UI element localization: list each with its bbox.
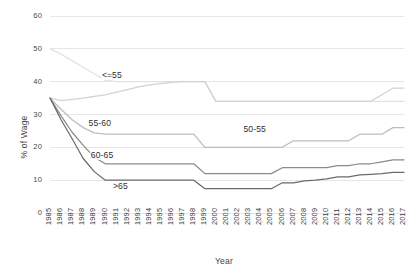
x-tick-label: 2003: [243, 208, 252, 225]
x-tick-label: 2010: [321, 208, 330, 225]
x-tick-label: 2000: [210, 208, 219, 225]
series-label-60-65: 60-65: [90, 150, 114, 160]
y-tick-label: 0: [16, 208, 42, 217]
series-label-50-55: 50-55: [242, 124, 266, 134]
y-tick-label: 20: [16, 142, 42, 151]
y-tick-label: 30: [16, 110, 42, 119]
series-label-55-60: 55-60: [88, 118, 112, 128]
y-tick-label: 50: [16, 44, 42, 53]
x-tick-label: 2014: [365, 208, 374, 225]
x-tick-label: 2012: [343, 208, 352, 225]
x-tick-label: 1990: [100, 208, 109, 225]
x-tick-label: 1997: [177, 208, 186, 225]
series-label-65: >65: [112, 181, 129, 191]
x-tick-label: 1986: [55, 208, 64, 225]
x-tick-label: 1985: [44, 208, 53, 225]
x-tick-label: 2015: [376, 208, 385, 225]
x-tick-label: 2001: [221, 208, 230, 225]
x-tick-label: 2009: [310, 208, 319, 225]
x-tick-label: 1994: [144, 208, 153, 225]
x-tick-label: 1987: [66, 208, 75, 225]
plot-area: [0, 0, 418, 273]
x-tick-label: 1999: [199, 208, 208, 225]
y-tick-label: 10: [16, 175, 42, 184]
line-chart: % of Wage 6050403020100 1985198619871988…: [0, 0, 418, 273]
x-tick-label: 1995: [155, 208, 164, 225]
x-tick-label: 1998: [188, 208, 197, 225]
x-tick-label: 1993: [133, 208, 142, 225]
x-tick-label: 2007: [288, 208, 297, 225]
x-axis-title: Year: [215, 256, 233, 266]
x-tick-label: 1989: [88, 208, 97, 225]
x-tick-label: 2006: [277, 208, 286, 225]
x-tick-label: 2004: [254, 208, 263, 225]
y-tick-label: 60: [16, 11, 42, 20]
x-tick-label: 2008: [299, 208, 308, 225]
x-tick-label: 1996: [166, 208, 175, 225]
x-tick-label: 1992: [122, 208, 131, 225]
x-tick-label: 2013: [354, 208, 363, 225]
x-tick-label: 2005: [265, 208, 274, 225]
x-tick-label: 1991: [111, 208, 120, 225]
x-tick-label: 2002: [232, 208, 241, 225]
x-tick-label: 2016: [387, 208, 396, 225]
x-tick-label: 1988: [77, 208, 86, 225]
x-tick-label: 2011: [332, 208, 341, 225]
x-tick-label: 2017: [398, 208, 407, 225]
y-tick-label: 40: [16, 77, 42, 86]
series-label-55: <=55: [101, 70, 123, 80]
